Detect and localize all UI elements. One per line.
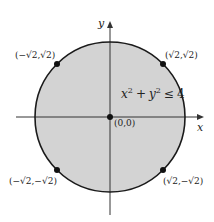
label-origin: (0,0)	[114, 118, 135, 128]
ineq-plus: +	[136, 87, 146, 101]
ineq-rhs: 4	[177, 87, 185, 101]
label-upper-left: (−√2,√2)	[15, 50, 55, 60]
x-axis-arrow-icon	[197, 114, 204, 120]
point-lower-right	[160, 167, 166, 173]
ineq-exp-y: 2	[156, 86, 161, 95]
label-lower-left: (−√2,−√2)	[9, 176, 57, 186]
label-lower-right: (√2,−√2)	[163, 176, 203, 186]
point-upper-left	[54, 61, 60, 67]
point-lower-left	[54, 167, 60, 173]
ineq-rel: ≤	[164, 87, 174, 101]
x-axis-label: x	[197, 121, 204, 134]
ineq-exp-x: 2	[128, 86, 133, 95]
point-origin	[107, 114, 113, 120]
point-upper-right	[160, 61, 166, 67]
y-axis-label: y	[97, 17, 105, 30]
label-upper-right: (√2,√2)	[165, 50, 198, 60]
y-axis-arrow-icon	[107, 21, 113, 28]
disk-diagram: x y (0,0) (−√2,√2) (√2,√2) (−√2,−√2) (√2…	[0, 0, 214, 222]
